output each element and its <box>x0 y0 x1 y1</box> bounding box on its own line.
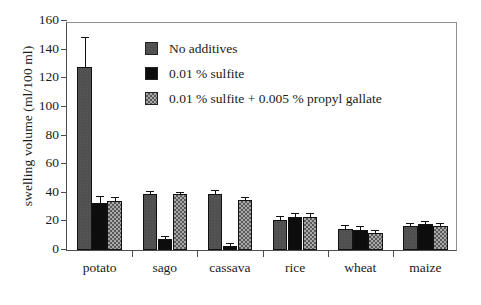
legend-swatch-checkered-gray <box>145 92 158 105</box>
legend-swatch-solid-dark-gray <box>145 42 158 55</box>
legend-item: 0.01 % sulfite + 0.005 % propyl gallate <box>145 86 382 111</box>
y-axis-tick: 80 <box>61 135 67 136</box>
bar <box>223 246 238 250</box>
error-bar <box>180 193 181 194</box>
error-bar-cap <box>81 37 89 38</box>
x-axis-tick <box>132 250 133 257</box>
bar <box>288 217 303 250</box>
y-axis-tick: 160 <box>61 20 67 21</box>
error-bar <box>245 198 246 200</box>
error-bar-cap <box>436 223 444 224</box>
bar <box>418 224 433 250</box>
x-axis-tick-label: sago <box>152 260 177 276</box>
y-axis-tick-label: 20 <box>46 212 60 228</box>
bar <box>92 203 107 250</box>
error-bar <box>215 191 216 194</box>
bar <box>77 67 92 250</box>
error-bar <box>100 197 101 203</box>
error-bar-cap <box>371 230 379 231</box>
y-axis-tick-label: 60 <box>46 155 60 171</box>
bar <box>238 200 253 250</box>
figure: swelling volume (ml/100 ml) 020406080100… <box>0 0 481 305</box>
bar <box>433 226 448 250</box>
bar <box>173 194 188 250</box>
bar <box>368 233 383 250</box>
bar <box>353 230 368 250</box>
x-axis-tick <box>393 250 394 257</box>
x-axis-tick-label: rice <box>285 260 305 276</box>
legend-item: 0.01 % sulfite <box>145 61 382 86</box>
error-bar-cap <box>241 197 249 198</box>
error-bar-cap <box>211 190 219 191</box>
error-bar <box>410 224 411 226</box>
chart-legend: No additives0.01 % sulfite0.01 % sulfite… <box>145 36 382 111</box>
y-axis-tick-label: 120 <box>39 69 59 85</box>
error-bar <box>165 237 166 238</box>
error-bar <box>440 224 441 226</box>
error-bar-cap <box>96 196 104 197</box>
bar <box>143 194 158 250</box>
error-bar <box>310 214 311 217</box>
bar <box>273 220 288 250</box>
x-axis-tick <box>263 250 264 257</box>
error-bar <box>345 226 346 228</box>
x-axis-tick <box>328 250 329 257</box>
bar <box>107 201 122 250</box>
legend-label: No additives <box>169 41 238 57</box>
y-axis-tick: 140 <box>61 49 67 50</box>
x-axis-tick <box>197 250 198 257</box>
y-axis-tick: 60 <box>61 163 67 164</box>
y-axis-tick-label: 100 <box>39 98 59 114</box>
error-bar-cap <box>406 223 414 224</box>
bar <box>208 194 223 250</box>
y-axis-tick-label: 40 <box>46 184 60 200</box>
error-bar-cap <box>291 213 299 214</box>
x-axis-tick-label: maize <box>409 260 441 276</box>
legend-swatch-solid-black <box>145 67 158 80</box>
y-axis-tick-label: 80 <box>46 127 60 143</box>
error-bar <box>425 222 426 224</box>
y-axis-tick-label: 0 <box>52 241 59 257</box>
error-bar <box>230 244 231 245</box>
y-axis-tick: 0 <box>61 249 67 250</box>
error-bar-cap <box>356 226 364 227</box>
legend-label: 0.01 % sulfite + 0.005 % propyl gallate <box>169 91 382 107</box>
error-bar-cap <box>276 216 284 217</box>
x-axis-tick-label: wheat <box>344 260 376 276</box>
y-axis-tick: 40 <box>61 192 67 193</box>
bar <box>338 229 353 250</box>
error-bar <box>115 198 116 201</box>
y-axis-title: swelling volume (ml/100 ml) <box>20 6 36 246</box>
error-bar-cap <box>226 243 234 244</box>
error-bar-cap <box>111 197 119 198</box>
error-bar <box>280 217 281 220</box>
error-bar <box>85 38 86 67</box>
x-axis-tick-label: potato <box>83 260 117 276</box>
bar <box>303 217 318 250</box>
y-axis-tick: 120 <box>61 77 67 78</box>
error-bar-cap <box>176 192 184 193</box>
error-bar-cap <box>341 225 349 226</box>
error-bar <box>375 231 376 232</box>
error-bar-cap <box>306 213 314 214</box>
error-bar <box>360 227 361 230</box>
error-bar-cap <box>161 236 169 237</box>
y-axis-tick-label: 160 <box>39 12 59 28</box>
error-bar-cap <box>146 191 154 192</box>
y-axis-tick-label: 140 <box>39 41 59 57</box>
bar <box>158 239 173 250</box>
legend-label: 0.01 % sulfite <box>169 66 244 82</box>
error-bar <box>295 214 296 217</box>
x-axis-tick-label: cassava <box>209 260 250 276</box>
error-bar-cap <box>421 221 429 222</box>
y-axis-tick: 100 <box>61 106 67 107</box>
legend-item: No additives <box>145 36 382 61</box>
y-axis-tick: 20 <box>61 220 67 221</box>
bar <box>403 226 418 250</box>
error-bar <box>150 192 151 194</box>
